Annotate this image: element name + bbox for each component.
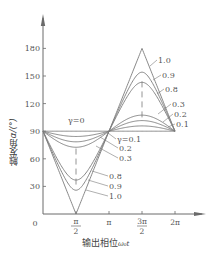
origin-label: 0 (32, 219, 37, 228)
upper-curve-label: 0.2 (174, 110, 187, 119)
gamma0-label: γ=0 (68, 116, 85, 125)
x-axis-label: 输出相位ω₀t (82, 236, 129, 249)
lower-curve-label: 1.0 (109, 192, 122, 201)
y-tick-label: 180 (25, 44, 40, 53)
lower-curve-label: 0.9 (109, 182, 122, 191)
upper-curve-label: 0.1 (176, 120, 189, 129)
y-tick-label: 60 (30, 155, 40, 164)
x-axis-arrow-icon (194, 212, 206, 216)
svg-text:2: 2 (74, 227, 79, 236)
lower-curve-label: 0.2 (119, 144, 132, 153)
x-tick-label: π2 (71, 217, 81, 236)
svg-text:3π: 3π (137, 217, 147, 226)
x-tick-label: 3π2 (137, 217, 147, 236)
trigger-angle-chart: 3060901201501800π2π3π22π γ=01.00.90.80.3… (0, 0, 212, 256)
svg-text:2: 2 (140, 227, 145, 236)
svg-text:2π: 2π (170, 218, 180, 227)
upper-curve-label: 0.9 (162, 71, 175, 80)
y-tick-label: 30 (30, 182, 40, 191)
x-tick-label: 2π (170, 218, 180, 227)
y-tick-label: 150 (25, 72, 40, 81)
svg-text:π: π (74, 217, 79, 226)
y-tick-label: 120 (25, 100, 40, 109)
y-tick-label: 90 (30, 127, 40, 136)
x-tick-label: π (107, 218, 112, 227)
lower-curve-label: 0.8 (109, 172, 122, 181)
lower-curve-label: γ=0.1 (117, 135, 141, 144)
svg-text:π: π (107, 218, 112, 227)
lower-curve-label: 0.3 (119, 154, 132, 163)
y-axis-label: 触发角α/(°) (6, 118, 20, 166)
y-axis-arrow-icon (41, 14, 45, 26)
upper-curve-label: 1.0 (158, 56, 171, 65)
upper-curve-label: 0.8 (165, 85, 178, 94)
upper-curve-label: 0.3 (172, 100, 185, 109)
